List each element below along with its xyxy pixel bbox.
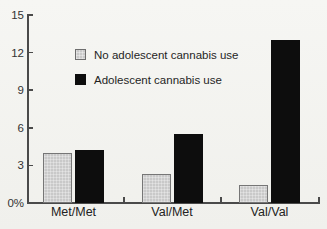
bar-val-met-series0 — [142, 174, 171, 203]
y-tick-mark — [28, 52, 33, 54]
category-label: Val/Val — [228, 205, 312, 219]
legend-item: Adolescent cannabis use — [75, 74, 239, 85]
bar-chart-figure: 15129630% Met/MetVal/MetVal/Val No adole… — [0, 0, 327, 229]
y-tick-label: 3 — [0, 158, 24, 172]
y-tick-label: 12 — [0, 46, 24, 60]
legend-item: No adolescent cannabis use — [75, 49, 239, 60]
y-tick-mark — [28, 127, 33, 129]
category-label: Met/Met — [32, 205, 116, 219]
x-tick-mark — [220, 197, 222, 202]
y-tick-mark — [28, 89, 33, 91]
y-tick-label: 6 — [0, 121, 24, 135]
legend-label: Adolescent cannabis use — [94, 74, 222, 86]
legend-swatch-icon — [75, 74, 86, 85]
x-tick-mark — [318, 197, 320, 202]
bar-met-met-series0 — [43, 153, 72, 203]
y-axis-line — [27, 14, 29, 203]
y-tick-mark — [28, 165, 33, 167]
category-label: Val/Met — [130, 205, 214, 219]
legend-label: No adolescent cannabis use — [94, 49, 239, 61]
bar-met-met-series1 — [75, 150, 104, 203]
x-tick-mark — [123, 197, 125, 202]
y-tick-label: 9 — [0, 83, 24, 97]
legend: No adolescent cannabis useAdolescent can… — [75, 49, 239, 99]
bar-val-met-series1 — [174, 134, 203, 203]
y-tick-mark — [28, 14, 33, 16]
bar-val-val-series0 — [239, 185, 268, 203]
legend-swatch-icon — [75, 49, 86, 60]
y-tick-label: 15 — [0, 8, 24, 22]
y-tick-label: 0% — [0, 196, 24, 210]
bar-val-val-series1 — [271, 40, 300, 203]
